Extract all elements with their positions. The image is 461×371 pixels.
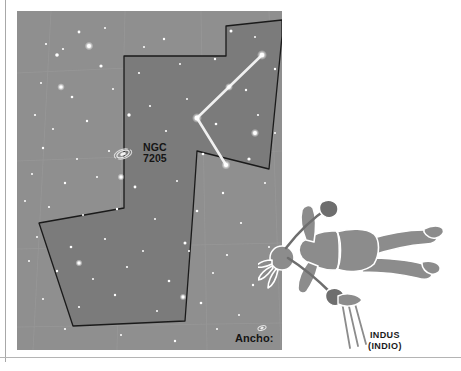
figure-quiver-grip [338, 294, 362, 306]
figure-upper-fist [320, 200, 338, 217]
star-chart-page: NGC 7205 Ancho: [0, 0, 461, 371]
ngc-label-line2: 7205 [143, 153, 167, 164]
ngc-object-label: NGC 7205 [143, 142, 167, 165]
indus-figure-illustration [258, 196, 458, 361]
figure-arrows [342, 300, 366, 348]
indus-figure-svg [258, 196, 458, 361]
figure-rear-foot [424, 226, 444, 238]
star-chart-panel[interactable]: NGC 7205 Ancho: [17, 11, 282, 350]
star-field-svg [17, 11, 282, 350]
constellation-name-label: INDUS (INDIO) [368, 330, 402, 353]
left-vertical-rule [5, 0, 6, 362]
constellation-common-name: (INDIO) [368, 341, 402, 352]
constellation-latin-name: INDUS [368, 330, 402, 341]
